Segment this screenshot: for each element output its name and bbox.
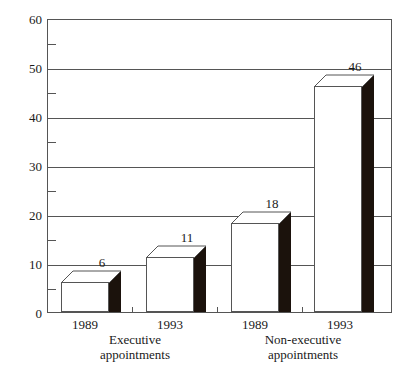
bar-value-label-3: 18	[254, 197, 290, 210]
minor-tick-35	[48, 142, 56, 143]
bar-value-label-4: 46	[337, 60, 373, 73]
minor-tick-5	[48, 289, 56, 290]
bar-front-face	[231, 223, 279, 312]
group-label-nonexecutive-line1: Non-executive	[230, 332, 376, 347]
minor-tick-15	[48, 240, 56, 241]
x-axis-year-1: 1989	[57, 317, 113, 332]
minor-tick-45	[48, 93, 56, 94]
y-axis-labels: 60 50 40 30 20 10 0	[0, 0, 42, 372]
minor-tick-55	[48, 44, 56, 45]
bar-executive-1993	[146, 246, 218, 312]
y-axis-label-40: 40	[29, 111, 42, 124]
y-axis-label-60: 60	[29, 13, 42, 26]
bar-nonexecutive-1989	[231, 212, 303, 312]
bar-front-face	[146, 257, 194, 312]
group-label-executive-line1: Executive	[70, 332, 200, 347]
bar-value-label-2: 11	[169, 231, 205, 244]
x-axis-year-3: 1989	[227, 317, 283, 332]
y-axis-label-50: 50	[29, 62, 42, 75]
y-axis-label-30: 30	[29, 160, 42, 173]
plot-area: 6 11 18 46	[47, 19, 392, 313]
x-axis-year-4: 1993	[312, 317, 368, 332]
bar-front-face	[314, 86, 362, 312]
bar-value-label-1: 6	[84, 256, 120, 269]
minor-tick-25	[48, 191, 56, 192]
bar-executive-1989	[61, 271, 133, 312]
bar-front-face	[61, 282, 109, 312]
y-axis-label-20: 20	[29, 209, 42, 222]
bar-chart: 60 50 40 30 20 10 0 6	[0, 0, 420, 372]
y-axis-label-10: 10	[29, 258, 42, 271]
group-label-nonexecutive-line2: appointments	[230, 347, 376, 362]
bar-nonexecutive-1993	[314, 75, 386, 312]
x-axis-year-2: 1993	[142, 317, 198, 332]
y-axis-label-0: 0	[36, 307, 43, 320]
group-label-executive-line2: appointments	[70, 347, 200, 362]
